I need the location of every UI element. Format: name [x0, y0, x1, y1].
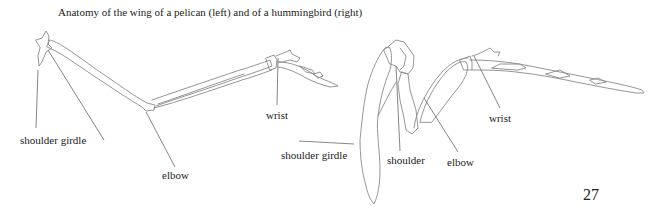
pelican-wing-drawing [36, 31, 338, 111]
hummingbird-label-elbow: elbow [447, 156, 474, 168]
pelican-wrist-leader [277, 58, 278, 105]
pelican-label-wrist: wrist [266, 109, 288, 121]
pelican-elbow-leader [146, 112, 175, 167]
hummingbird-label-shoulder: shoulder [387, 154, 425, 166]
page-number: 27 [583, 186, 599, 204]
hummingbird-elbow-leader [424, 98, 458, 152]
hummingbird-label-shoulder-girdle: shoulder girdle [281, 149, 347, 161]
pelican-label-elbow: elbow [162, 169, 189, 181]
pelican-shoulder-girdle-leader-1 [36, 70, 38, 128]
hummingbird-label-wrist: wrist [489, 112, 511, 124]
wing-anatomy-illustration [0, 0, 660, 210]
hummingbird-shoulder-girdle-leader [299, 141, 354, 144]
pelican-label-shoulder-girdle: shoulder girdle [20, 134, 86, 146]
hummingbird-wrist-leader [474, 56, 500, 108]
